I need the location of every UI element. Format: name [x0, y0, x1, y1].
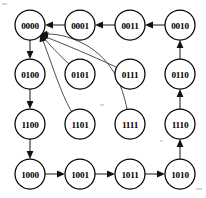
- node-1101[interactable]: 1101: [65, 109, 95, 139]
- state-transition-diagram: 0000 0001 0011 0010 0100 0101: [0, 0, 206, 198]
- node-1001[interactable]: 1001: [65, 159, 95, 189]
- node-1001-label: 1001: [71, 170, 89, 180]
- node-1010[interactable]: 1010: [165, 159, 195, 189]
- node-0110-label: 0110: [171, 70, 189, 80]
- node-0000-label: 0000: [21, 21, 39, 31]
- node-0001-label: 0001: [71, 21, 89, 31]
- node-0101-label: 0101: [71, 70, 89, 80]
- edge-1110-to-0110: [177, 89, 184, 109]
- node-0011[interactable]: 0011: [115, 10, 145, 40]
- node-1111-label: 1111: [122, 120, 139, 130]
- node-1000-label: 1000: [21, 170, 39, 180]
- node-1100-label: 1100: [21, 120, 39, 130]
- node-0000[interactable]: 0000: [15, 10, 45, 40]
- node-0100[interactable]: 0100: [15, 59, 45, 89]
- node-0101[interactable]: 0101: [65, 59, 95, 89]
- edge-0010-to-0011: [145, 22, 165, 29]
- node-1110[interactable]: 1110: [165, 109, 195, 139]
- node-1011[interactable]: 1011: [115, 159, 145, 189]
- node-1110-label: 1110: [172, 120, 189, 130]
- node-0001[interactable]: 0001: [65, 10, 95, 40]
- edge-1000-to-1001: [45, 171, 65, 178]
- node-0010[interactable]: 0010: [165, 10, 195, 40]
- node-1000[interactable]: 1000: [15, 159, 45, 189]
- edge-0110-to-0010: [177, 40, 184, 59]
- edge-0100-to-1100: [27, 89, 34, 109]
- edge-0001-to-0000: [45, 22, 65, 29]
- edge-0101-to-0000: [40, 34, 69, 65]
- node-1101-label: 1101: [71, 120, 89, 130]
- node-0011-label: 0011: [121, 21, 139, 31]
- node-1111[interactable]: 1111: [115, 109, 145, 139]
- edge-1001-to-1011: [95, 171, 115, 178]
- edge-1100-to-1000: [27, 139, 34, 159]
- diagram-canvas: 0000 0001 0011 0010 0100 0101: [0, 0, 206, 198]
- node-1010-label: 1010: [171, 170, 189, 180]
- node-1100[interactable]: 1100: [15, 109, 45, 139]
- edge-1010-to-1110: [177, 139, 184, 159]
- edge-0000-to-0100: [27, 40, 34, 59]
- edge-1011-to-1010: [145, 171, 165, 178]
- node-1011-label: 1011: [121, 170, 139, 180]
- node-0100-label: 0100: [21, 70, 39, 80]
- node-0010-label: 0010: [171, 21, 189, 31]
- edge-0011-to-0001: [95, 22, 115, 29]
- node-0111-label: 0111: [122, 70, 139, 80]
- edge-layer: [27, 22, 184, 178]
- node-0110[interactable]: 0110: [165, 59, 195, 89]
- node-0111[interactable]: 0111: [115, 59, 145, 89]
